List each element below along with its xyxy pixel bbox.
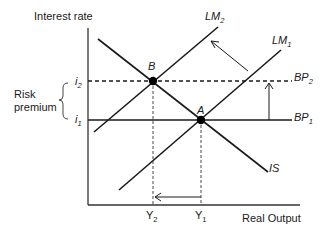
label-is: IS xyxy=(269,162,280,174)
risk-premium-brace-icon xyxy=(59,83,68,119)
risk-premium-label-line1: Risk xyxy=(14,88,36,100)
output-shift-arrow-icon xyxy=(155,193,201,201)
tick-i2: i2 xyxy=(75,75,82,90)
tick-i1: i1 xyxy=(75,113,82,128)
x-axis-label: Real Output xyxy=(242,212,301,224)
is-lm-bp-diagram: Interest rate Real Output i2 i1 Y2 Y1 LM… xyxy=(0,0,329,234)
label-lm2: LM2 xyxy=(205,10,225,25)
y-axis-label: Interest rate xyxy=(34,10,93,22)
point-b xyxy=(149,77,157,85)
label-point-b: B xyxy=(148,60,155,72)
bp-shift-arrow-icon xyxy=(265,83,273,120)
is-curve xyxy=(98,39,268,172)
label-point-a: A xyxy=(196,104,204,116)
lm-shift-arrow-icon xyxy=(211,41,248,71)
tick-y1: Y1 xyxy=(195,209,207,224)
point-a xyxy=(197,116,205,124)
label-lm1: LM1 xyxy=(272,34,291,49)
label-bp2: BP2 xyxy=(294,71,314,86)
risk-premium-label-line2: premium xyxy=(14,101,57,113)
tick-y2: Y2 xyxy=(146,209,158,224)
label-bp1: BP1 xyxy=(294,111,313,126)
